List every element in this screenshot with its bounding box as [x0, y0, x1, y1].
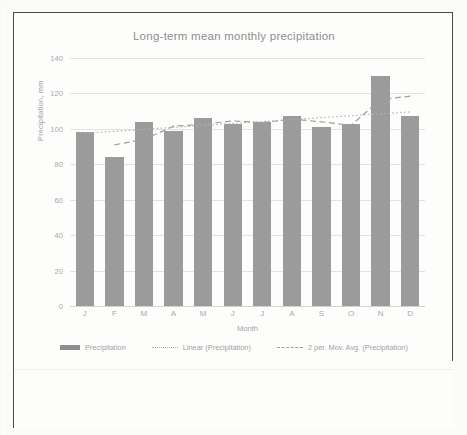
y-axis-tick-label: 80 [23, 160, 63, 169]
x-axis-tick-label: O [336, 309, 366, 318]
dashed-line-swatch-icon [277, 347, 303, 348]
bar-d-11[interactable] [401, 116, 419, 306]
x-axis-tick-label: A [277, 309, 307, 318]
legend-item-label: Linear (Precipitation) [183, 343, 251, 352]
x-axis-title: Month [70, 324, 425, 333]
chart-title: Long-term mean monthly precipitation [14, 30, 454, 42]
bar-slot [70, 58, 100, 306]
bar-j-5[interactable] [224, 124, 242, 306]
page-blank-area [14, 361, 454, 429]
bar-slot [336, 58, 366, 306]
scanned-page: Long-term mean monthly precipitation Pre… [0, 0, 467, 435]
bar-j-6[interactable] [253, 122, 271, 306]
chart-legend: PrecipitationLinear (Precipitation)2 per… [14, 343, 454, 352]
bar-slot [307, 58, 337, 306]
bar-slot [129, 58, 159, 306]
bar-slot [159, 58, 189, 306]
legend-item-0[interactable]: Precipitation [60, 343, 126, 352]
bar-slot [277, 58, 307, 306]
x-axis-tick-label: N [366, 309, 396, 318]
y-axis-tick-label: 0 [23, 302, 63, 311]
x-axis-tick-label: J [70, 309, 100, 318]
y-axis-tick-label: 40 [23, 231, 63, 240]
legend-item-label: Precipitation [85, 343, 126, 352]
x-axis-tick-label: M [129, 309, 159, 318]
bar-s-8[interactable] [312, 127, 330, 306]
legend-item-1[interactable]: Linear (Precipitation) [152, 343, 251, 352]
bar-slot [395, 58, 425, 306]
bar-slot [218, 58, 248, 306]
page-rule [14, 369, 454, 370]
x-axis-tick-label: J [247, 309, 277, 318]
bar-o-9[interactable] [342, 124, 360, 306]
bar-f-1[interactable] [105, 157, 123, 306]
dotted-line-swatch-icon [152, 347, 178, 348]
bar-m-4[interactable] [194, 118, 212, 306]
bar-slot [247, 58, 277, 306]
x-axis-tick-label: M [188, 309, 218, 318]
gridline [70, 306, 425, 307]
page-frame: Long-term mean monthly precipitation Pre… [13, 12, 453, 428]
y-axis-tick-label: 20 [23, 267, 63, 276]
y-axis-tick-label: 100 [23, 125, 63, 134]
bar-slot [366, 58, 396, 306]
x-axis-ticks: JFMAMJJASOND [70, 309, 425, 318]
legend-item-2[interactable]: 2 per. Mov. Avg. (Precipitation) [277, 343, 408, 352]
bar-a-3[interactable] [164, 131, 182, 306]
bar-m-2[interactable] [135, 122, 153, 306]
solid-bar-swatch-icon [60, 345, 80, 350]
x-axis-tick-label: F [100, 309, 130, 318]
x-axis-tick-label: A [159, 309, 189, 318]
bar-n-10[interactable] [371, 76, 389, 306]
plot-area: 020406080100120140 [70, 58, 425, 306]
y-axis-tick-label: 120 [23, 89, 63, 98]
bar-series [70, 58, 425, 306]
legend-item-label: 2 per. Mov. Avg. (Precipitation) [308, 343, 408, 352]
x-axis-tick-label: D [395, 309, 425, 318]
x-axis-tick-label: J [218, 309, 248, 318]
bar-a-7[interactable] [283, 116, 301, 306]
chart-container: Long-term mean monthly precipitation Pre… [14, 13, 454, 361]
bar-j-0[interactable] [76, 132, 94, 306]
x-axis-tick-label: S [307, 309, 337, 318]
y-axis-tick-label: 60 [23, 196, 63, 205]
y-axis-tick-label: 140 [23, 54, 63, 63]
bar-slot [188, 58, 218, 306]
bar-slot [100, 58, 130, 306]
